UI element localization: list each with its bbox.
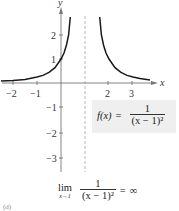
curve-right-branch <box>100 17 150 80</box>
x-tick-label: 2 <box>105 88 110 99</box>
function-formula: f(x) = 1 (x − 1)² <box>97 103 165 127</box>
figure-caption: (d) <box>3 203 11 211</box>
y-tick-label: −3 <box>46 153 57 164</box>
limit-equals: = <box>120 185 126 196</box>
curve-left-branch <box>1 17 70 81</box>
limit-op-label: lim <box>58 182 72 193</box>
formula-equals: = <box>116 110 122 121</box>
limit-numerator: 1 <box>93 178 102 189</box>
x-tick-label: −1 <box>30 88 41 99</box>
formula-numerator: 1 <box>143 103 152 114</box>
formula-denominator: (x − 1)² <box>130 114 166 127</box>
limit-denominator: (x − 1)² <box>80 189 116 202</box>
y-tick-label: −2 <box>46 128 57 139</box>
y-tick-label: 2 <box>51 30 56 41</box>
limit-operator: lim x→1 <box>58 182 72 199</box>
formula-fraction: 1 (x − 1)² <box>130 103 166 127</box>
formula-lhs: f(x) <box>97 110 112 121</box>
limit-fraction: 1 (x − 1)² <box>80 178 116 202</box>
limit-subscript: x→1 <box>59 193 71 199</box>
x-axis-arrow-icon <box>151 81 158 85</box>
y-tick-label: 1 <box>51 54 56 65</box>
x-tick-label: −2 <box>6 88 17 99</box>
limit-expression: lim x→1 1 (x − 1)² = ∞ <box>58 178 137 202</box>
x-axis-label: x <box>159 77 165 88</box>
x-tick-label: 3 <box>129 88 134 99</box>
y-axis-arrow-icon <box>59 7 63 14</box>
limit-value: ∞ <box>130 185 138 196</box>
y-axis-label: y <box>57 0 63 8</box>
y-tick-label: −1 <box>46 102 57 113</box>
